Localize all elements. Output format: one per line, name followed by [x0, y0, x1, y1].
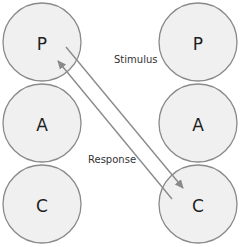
left-ego-states: P A C: [3, 3, 81, 243]
right-adult-circle: A: [159, 84, 237, 162]
left-child-circle: C: [3, 165, 81, 243]
left-parent-label: P: [37, 34, 47, 54]
left-adult-circle: A: [3, 84, 81, 162]
right-parent-label: P: [193, 34, 203, 54]
left-child-label: C: [36, 196, 48, 216]
stimulus-label: Stimulus: [114, 54, 157, 65]
right-adult-label: A: [192, 115, 204, 135]
right-child-label: C: [192, 196, 204, 216]
right-parent-circle: P: [159, 3, 237, 81]
transaction-diagram: P A C P A C Stimulus Response: [0, 0, 240, 247]
right-child-circle: C: [159, 165, 237, 243]
left-parent-circle: P: [3, 3, 81, 81]
right-ego-states: P A C: [159, 3, 237, 243]
left-adult-label: A: [36, 115, 48, 135]
response-label: Response: [88, 154, 136, 165]
